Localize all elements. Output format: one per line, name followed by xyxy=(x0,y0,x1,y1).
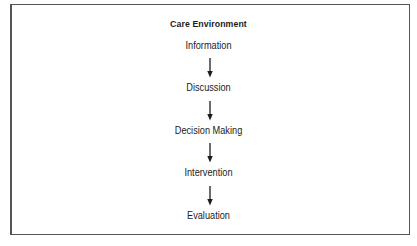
step-discussion: Discussion xyxy=(17,82,401,93)
step-information: Information xyxy=(17,40,401,51)
down-arrow-icon xyxy=(205,186,215,206)
down-arrow-icon xyxy=(205,58,215,78)
down-arrow-icon xyxy=(205,101,215,121)
diagram-title: Care Environment xyxy=(17,18,401,29)
down-arrow-icon xyxy=(205,143,215,163)
step-decision-making: Decision Making xyxy=(17,125,401,136)
step-evaluation: Evaluation xyxy=(17,210,401,221)
step-intervention: Intervention xyxy=(17,167,401,178)
